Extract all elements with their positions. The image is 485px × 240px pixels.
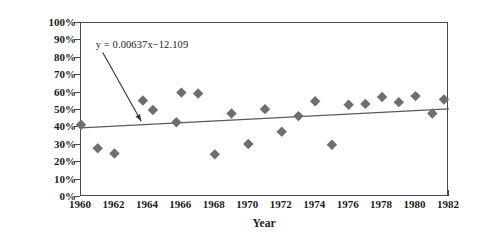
data-point-marker [439,94,449,104]
y-axis-tick-label: 60% [36,86,76,97]
data-point-marker [343,100,353,110]
y-axis-tick-label: 30% [36,138,76,149]
y-axis-tick-label: 80% [36,51,76,62]
annotation-arrow-head [136,114,142,121]
chart-figure: Percentage of Environmental Articles Cov… [0,0,485,240]
y-axis-tick-label: 90% [36,34,76,45]
data-point-marker [377,92,387,102]
y-axis-tick-mark [74,196,80,197]
data-point-marker [176,87,186,97]
data-point-marker [394,97,404,107]
x-axis-title: Year [80,217,448,229]
data-point-marker [210,149,220,159]
data-point-marker [360,99,370,109]
data-point-marker [171,117,181,127]
data-point-marker [148,105,158,115]
data-point-marker [243,139,253,149]
annotation-arrow-shaft [103,53,141,122]
y-axis-tick-label: 100% [36,17,76,28]
y-axis-tick-label: 10% [36,173,76,184]
y-axis-tick-label: 50% [36,104,76,115]
data-point-marker [138,95,148,105]
stray-speck [115,76,117,78]
data-point-marker [109,148,119,158]
data-point-marker [327,140,337,150]
trendline-equation-annotation: y = 0.00637x−12.109 [96,39,189,50]
y-axis-tick-label: 70% [36,69,76,80]
data-point-marker [277,127,287,137]
data-point-marker [193,88,203,98]
data-point-marker [260,104,270,114]
data-point-marker [293,111,303,121]
x-axis-tick-label: 1982 [428,199,468,210]
y-axis-tick-label: 20% [36,156,76,167]
y-axis-tick-label: 40% [36,121,76,132]
data-point-marker [410,91,420,101]
data-point-marker [93,143,103,153]
data-point-marker [226,108,236,118]
data-point-marker [310,96,320,106]
